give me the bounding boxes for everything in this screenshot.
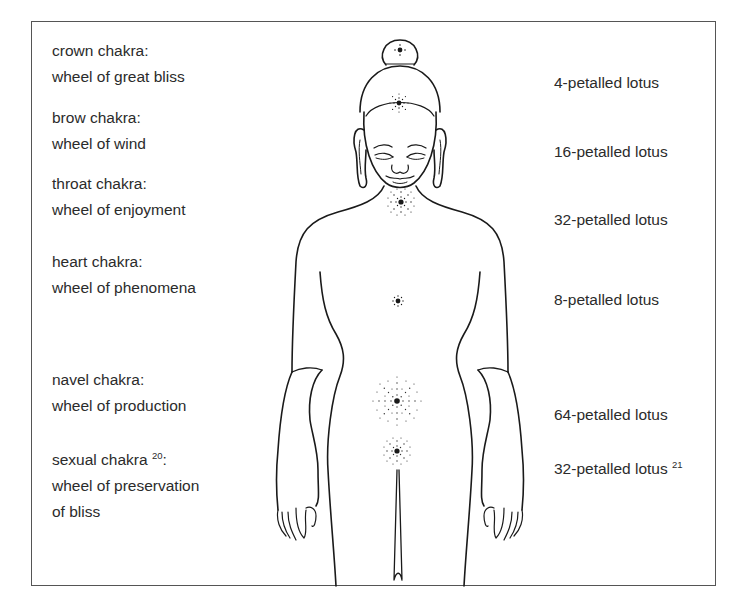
left-arm-outer [277, 372, 293, 510]
right-torso-side [457, 272, 480, 586]
right-arm-outer [508, 372, 524, 510]
chakra-dots [372, 44, 421, 464]
face-outline [364, 112, 437, 188]
leg-split [394, 470, 402, 580]
topknot [382, 40, 417, 65]
right-hand [484, 507, 523, 540]
left-hand [277, 507, 316, 540]
right-arm-inner [478, 370, 491, 506]
left-torso-side [320, 272, 343, 586]
right-shoulder [416, 186, 508, 372]
heart-chakra-dot [392, 295, 403, 306]
sexual-chakra-dot [383, 437, 410, 464]
crown-chakra-dot [394, 44, 406, 56]
left-shoulder [292, 186, 384, 372]
navel-chakra-dot [372, 376, 421, 425]
body-figure-illustration [0, 0, 734, 607]
left-arm-inner [310, 370, 323, 506]
throat-chakra-dot [387, 188, 414, 215]
